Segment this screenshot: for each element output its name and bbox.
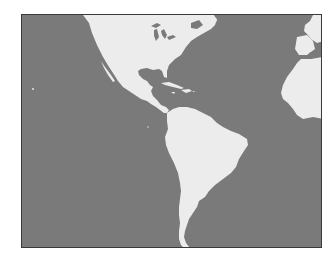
island-dot [32,88,34,90]
island-dot [110,42,111,43]
map-svg [22,15,322,248]
map-frame [21,14,322,248]
island-dot [147,126,148,127]
